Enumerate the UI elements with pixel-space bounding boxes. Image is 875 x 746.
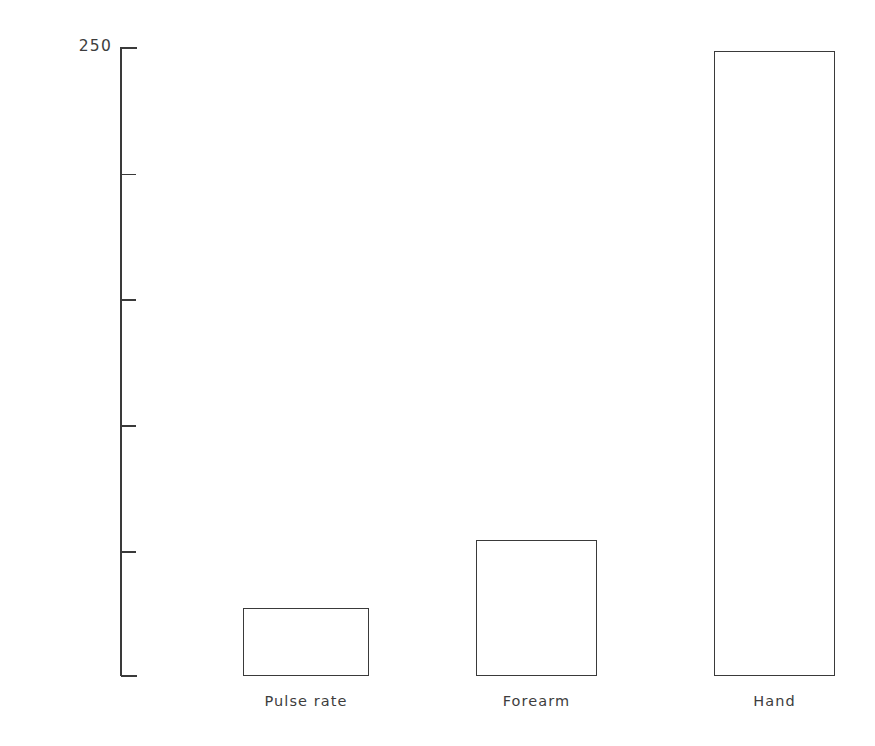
y-axis-tick-labels: 250 [0, 0, 112, 746]
y-axis-top-cap [121, 47, 137, 49]
y-axis-bottom-cap [121, 675, 137, 677]
y-axis-tick-150 [121, 299, 136, 301]
bar-forearm [476, 540, 597, 676]
y-axis-tick-label-250: 250 [79, 39, 112, 55]
y-axis-line [120, 47, 122, 676]
y-axis-tick-50 [121, 551, 136, 553]
bar-hand [714, 51, 835, 676]
category-label-pulse-rate: Pulse rate [243, 694, 369, 709]
y-axis-tick-200 [121, 174, 136, 176]
y-axis-tick-100 [121, 425, 136, 427]
bar-chart-figure: 250 Mean % increase Pulse rate Forearm H… [0, 0, 875, 746]
category-label-hand: Hand [714, 694, 835, 709]
bar-pulse-rate [243, 608, 369, 676]
category-label-forearm: Forearm [476, 694, 597, 709]
